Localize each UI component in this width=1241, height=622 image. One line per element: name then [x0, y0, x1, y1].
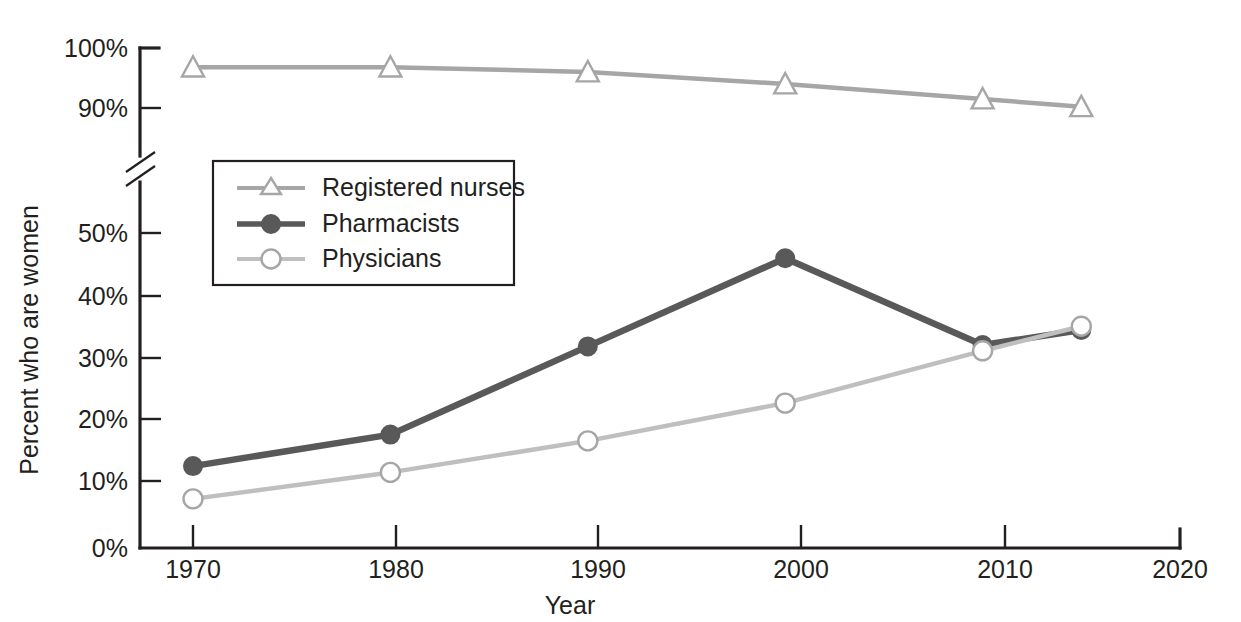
data-point-filled-circle	[776, 249, 794, 267]
y-tick-label-30: 30%	[78, 344, 128, 372]
data-point-open-circle	[776, 394, 795, 413]
y-tick-label-40: 40%	[78, 282, 128, 310]
y-tick-label-50: 50%	[78, 219, 128, 247]
open-circle-icon	[262, 250, 281, 269]
filled-circle-icon	[262, 215, 280, 233]
y-axis-title: Percent who are women	[15, 205, 43, 475]
y-ticks	[140, 108, 161, 481]
data-point-open-circle	[1072, 317, 1091, 336]
y-tick-label-100: 100%	[64, 34, 128, 62]
data-point-open-circle	[578, 431, 597, 450]
data-point-open-circle	[381, 463, 400, 482]
x-axis-title: Year	[545, 591, 596, 619]
data-point-open-circle	[184, 489, 203, 508]
series-line	[193, 67, 1081, 107]
x-tick-labels: 1970 1980 1990 2000 2010 2020	[165, 555, 1208, 583]
line-chart: 100% 90% 50% 40% 30% 20% 10% 0% 1970 198…	[0, 0, 1241, 622]
data-point-filled-circle	[184, 457, 202, 475]
x-tick-label-2010: 2010	[977, 555, 1033, 583]
x-tick-label-2020: 2020	[1152, 555, 1208, 583]
legend-label-pharmacists: Pharmacists	[322, 209, 460, 237]
x-ticks	[193, 525, 1005, 548]
x-tick-label-1970: 1970	[165, 555, 221, 583]
data-point-open-circle	[973, 341, 992, 360]
x-tick-label-2000: 2000	[773, 555, 829, 583]
legend-label-nurses: Registered nurses	[322, 173, 525, 201]
x-tick-label-1980: 1980	[368, 555, 424, 583]
legend: Registered nurses Pharmacists Physicians	[213, 161, 525, 285]
axis-group	[126, 48, 1180, 548]
legend-label-physicians: Physicians	[322, 244, 442, 272]
data-point-filled-circle	[579, 337, 597, 355]
data-point-filled-circle	[381, 426, 399, 444]
y-tick-label-20: 20%	[78, 405, 128, 433]
y-tick-label-0: 0%	[92, 534, 128, 562]
series-physicians	[184, 317, 1091, 509]
y-tick-label-90: 90%	[78, 94, 128, 122]
y-tick-label-10: 10%	[78, 467, 128, 495]
series-line	[193, 326, 1081, 499]
chart-page: 100% 90% 50% 40% 30% 20% 10% 0% 1970 198…	[0, 0, 1241, 622]
x-tick-label-1990: 1990	[570, 555, 626, 583]
y-tick-labels: 100% 90% 50% 40% 30% 20% 10% 0%	[64, 34, 128, 562]
series-registered-nurses	[182, 56, 1092, 116]
